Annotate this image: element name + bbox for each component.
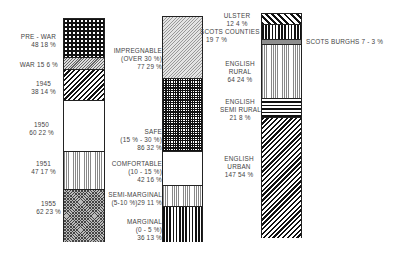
- segment-1951: [64, 152, 104, 190]
- segment-english-urban: [262, 118, 301, 238]
- segment-war: [64, 58, 104, 70]
- label-scots-counties: SCOTS COUNTIES 19 7 %: [200, 28, 260, 44]
- label-semi-marginal: SEMI-MARGINAL (5-10 %)29 11 %: [108, 191, 162, 207]
- label-safe: SAFE (15 % - 30 %) 86 32 %: [120, 128, 162, 152]
- bar-majority: [162, 16, 203, 242]
- label-ulster: ULSTER 12 4 %: [222, 12, 252, 28]
- bar-constituency-type: [261, 13, 302, 238]
- label-english-semi-rural: ENGLISH SEMI RURAL 21 8 %: [220, 98, 260, 122]
- label-1951: 1951 47 17 %: [31, 160, 56, 176]
- label-english-urban: ENGLISH URBAN 147 54 %: [220, 155, 258, 179]
- segment-safe: [163, 79, 202, 152]
- label-1950: 1950 60 22 %: [29, 121, 54, 137]
- segment-1950: [64, 101, 104, 152]
- segment-impregnable: [163, 17, 202, 79]
- label-english-rural: ENGLISH RURAL 64 24 %: [222, 60, 258, 84]
- label-1955: 1955 62 23 %: [36, 200, 61, 216]
- segment-ulster: [262, 14, 301, 25]
- label-scots-burghs: SCOTS BURGHS 7 - 3 %: [306, 38, 383, 46]
- segment-marginal: [163, 207, 202, 242]
- label-pre-war: PRE - WAR 48 18 %: [21, 33, 56, 49]
- label-comfortable: COMFORTABLE (10 - 15 %) 42 16 %: [112, 160, 162, 184]
- segment-pre-war: [64, 19, 104, 58]
- segment-semi-marginal: [163, 186, 202, 207]
- segment-1955: [64, 190, 104, 242]
- segment-english-rural: [262, 45, 301, 99]
- label-war: WAR 15 6 %: [20, 61, 58, 69]
- label-marginal: MARGINAL (0 - 5 %) 36 13 %: [127, 218, 162, 242]
- segment-scots-counties: [262, 25, 301, 40]
- segment-comfortable: [163, 152, 202, 186]
- segment-english-semi-rural: [262, 99, 301, 118]
- label-1945: 1945 38 14 %: [31, 80, 56, 96]
- segment-1945: [64, 70, 104, 101]
- label-impregnable: IMPREGNABLE (OVER 30 %) 77 29 %: [114, 47, 162, 71]
- bar-election: [63, 18, 105, 242]
